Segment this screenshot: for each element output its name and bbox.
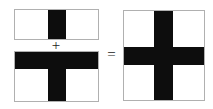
operand-b-horizontal-band bbox=[14, 51, 99, 69]
shape-addition-diagram: + = bbox=[0, 0, 213, 109]
equals-operator: = bbox=[103, 47, 120, 63]
operand-b-rectangle-with-t-shape bbox=[14, 51, 99, 102]
operand-b-vertical-stem bbox=[48, 68, 66, 102]
operand-a-rectangle-with-vertical-band bbox=[14, 9, 99, 40]
result-square-with-cross bbox=[123, 10, 205, 101]
result-horizontal-band bbox=[123, 47, 205, 65]
plus-operator: + bbox=[47, 38, 65, 52]
operand-a-vertical-band bbox=[48, 9, 66, 40]
